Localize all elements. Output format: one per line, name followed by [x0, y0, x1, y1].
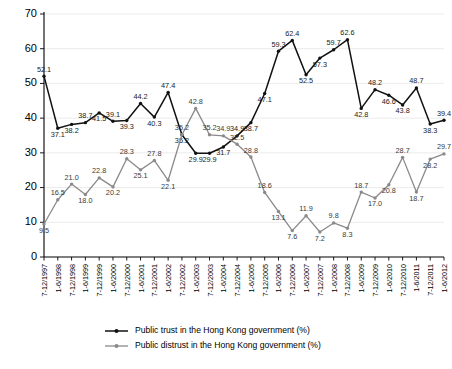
- x-axis-label: 7-12/2007: [316, 264, 325, 296]
- trust-point: [139, 102, 142, 105]
- trust-value-label: 38.7: [78, 111, 92, 120]
- trust-point: [415, 86, 418, 89]
- x-axis-label: 7-12/2002: [178, 264, 187, 296]
- distrust-point: [235, 142, 238, 145]
- distrust-value-label: 13.1: [271, 213, 285, 222]
- trust-point: [442, 119, 445, 122]
- x-axis-label: 1-6/2005: [247, 264, 256, 292]
- x-axis-label: 1-6/2002: [164, 264, 173, 292]
- x-axis-label: 1-6/2012: [440, 264, 449, 292]
- y-axis-label: 60: [25, 42, 37, 54]
- x-axis-label: 7-12/2005: [261, 264, 270, 296]
- trust-value-label: 52.5: [299, 76, 313, 85]
- distrust-point: [222, 134, 225, 137]
- trust-point: [277, 49, 280, 52]
- distrust-point: [208, 133, 211, 136]
- distrust-value-label: 28.7: [396, 146, 410, 155]
- x-axis-label: 1-6/2009: [357, 264, 366, 292]
- trust-value-label: 38.7: [244, 124, 258, 133]
- trust-value-label: 47.4: [161, 81, 175, 90]
- distrust-value-label: 20.2: [106, 188, 120, 197]
- x-axis-label: 7-12/2004: [233, 264, 242, 296]
- distrust-value-label: 16.5: [51, 188, 65, 197]
- distrust-point: [401, 156, 404, 159]
- trust-value-label: 52.1: [37, 65, 51, 74]
- distrust-point: [442, 152, 445, 155]
- trust-value-label: 57.3: [313, 60, 327, 69]
- distrust-point: [249, 155, 252, 158]
- distrust-value-label: 7.6: [287, 232, 297, 241]
- distrust-value-label: 18.6: [258, 181, 272, 190]
- trust-value-label: 39.1: [106, 110, 120, 119]
- distrust-value-label: 21.0: [64, 173, 78, 182]
- distrust-point: [56, 198, 59, 201]
- distrust-value-label: 34.9: [216, 124, 230, 133]
- distrust-value-label: 22.8: [92, 166, 106, 175]
- y-axis-label: 0: [31, 250, 37, 262]
- trust-value-label: 38.2: [64, 126, 78, 135]
- distrust-value-label: 35.2: [202, 123, 216, 132]
- distrust-value-label: 32.5: [230, 133, 244, 142]
- x-axis-label: 7-12/2000: [123, 264, 132, 296]
- trust-value-label: 43.8: [396, 106, 410, 115]
- distrust-value-label: 18.7: [409, 194, 423, 203]
- distrust-point: [70, 182, 73, 185]
- distrust-value-label: 42.8: [189, 97, 203, 106]
- trust-value-label: 39.4: [437, 109, 451, 118]
- x-axis-label: 1-6/2008: [330, 264, 339, 292]
- x-axis-label: 7-12/2008: [343, 264, 352, 296]
- distrust-value-label: 25.1: [133, 171, 147, 180]
- x-axis-label: 1-6/2003: [192, 264, 201, 292]
- x-axis-label: 7-12/2001: [150, 264, 159, 296]
- trust-value-label: 39.3: [120, 122, 134, 131]
- distrust-value-label: 29.7: [437, 142, 451, 151]
- x-axis-label: 1-6/2010: [385, 264, 394, 292]
- trust-value-label: 29.9: [202, 155, 216, 164]
- distrust-value-label: 28.8: [244, 146, 258, 155]
- trust-value-label: 47.1: [258, 95, 272, 104]
- trust-point: [111, 120, 114, 123]
- y-axis-label: 20: [25, 180, 37, 192]
- distrust-point: [360, 190, 363, 193]
- trust-value-label: 31.7: [216, 148, 230, 157]
- distrust-value-label: 9.8: [329, 211, 339, 220]
- trust-value-label: 42.8: [354, 110, 368, 119]
- trust-value-label: 37.1: [51, 130, 65, 139]
- y-axis-label: 30: [25, 146, 37, 158]
- distrust-value-label: 18.0: [78, 196, 92, 205]
- x-axis-label: 7-12/2009: [371, 264, 380, 296]
- distrust-value-label: 28.2: [423, 161, 437, 170]
- trust-point: [84, 121, 87, 124]
- y-axis-label: 50: [25, 76, 37, 88]
- trust-point: [42, 74, 45, 77]
- legend-label: Public trust in the Hong Kong government…: [135, 325, 310, 335]
- trust-value-label: 59.7: [327, 38, 341, 47]
- legend-label: Public distrust in the Hong Kong governm…: [135, 340, 321, 350]
- trust-point: [332, 48, 335, 51]
- distrust-point: [194, 107, 197, 110]
- trust-value-label: 40.3: [147, 119, 161, 128]
- trust-value-label: 62.6: [340, 28, 354, 37]
- trust-point: [373, 88, 376, 91]
- x-axis-label: 7-12/1999: [95, 264, 104, 296]
- distrust-point: [97, 176, 100, 179]
- distrust-value-label: 22.1: [161, 182, 175, 191]
- trust-point: [346, 38, 349, 41]
- line-chart: 0102030405060707-12/19971-6/19987-12/199…: [0, 0, 452, 369]
- x-axis-label: 7-12/2010: [399, 264, 408, 296]
- distrust-value-label: 27.8: [147, 149, 161, 158]
- legend-marker-point: [115, 344, 119, 348]
- distrust-value-label: 9.5: [39, 226, 49, 235]
- distrust-value-label: 28.3: [120, 147, 134, 156]
- trust-point: [166, 91, 169, 94]
- chart-container: 0102030405060707-12/19971-6/19987-12/199…: [0, 0, 452, 369]
- y-axis-label: 70: [25, 7, 37, 19]
- x-axis-label: 1-6/1999: [81, 264, 90, 292]
- trust-value-label: 59.3: [271, 40, 285, 49]
- distrust-value-label: 35.2: [175, 123, 189, 132]
- distrust-point: [332, 221, 335, 224]
- y-axis-label: 10: [25, 215, 37, 227]
- distrust-point: [125, 157, 128, 160]
- distrust-point: [180, 133, 183, 136]
- x-axis-label: 7-12/2003: [206, 264, 215, 296]
